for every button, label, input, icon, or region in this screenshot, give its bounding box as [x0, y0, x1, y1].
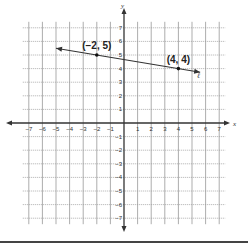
data-point: [95, 53, 99, 57]
y-tick-label: −6: [115, 202, 123, 208]
horizontal-rule: [0, 241, 248, 243]
y-tick-label: −1: [115, 134, 123, 140]
x-axis-label: x: [232, 120, 237, 128]
x-tick-label: −3: [80, 126, 88, 132]
line-name-label: ℓ: [196, 72, 200, 80]
x-tick-label: 4: [177, 126, 181, 132]
y-tick-label: −3: [115, 161, 123, 167]
y-tick-label: 2: [119, 93, 123, 99]
y-tick-label: −2: [115, 147, 123, 153]
coordinate-plane: x y −7−6−5−4−3−2−11234567−7−6−5−4−3−2−11…: [0, 0, 248, 247]
point-label: (4, 4): [167, 54, 190, 65]
line-arrow-left: [56, 47, 62, 52]
y-tick-label: −5: [115, 188, 123, 194]
x-axis-arrow-right: [224, 121, 230, 126]
y-tick-label: −7: [115, 215, 123, 221]
x-tick-label: 1: [136, 126, 140, 132]
y-tick-label: 7: [119, 25, 123, 31]
y-tick-label: 6: [119, 38, 123, 44]
x-tick-label: 2: [150, 126, 154, 132]
point-label: (−2, 5): [82, 40, 111, 51]
y-tick-label: 1: [119, 106, 123, 112]
y-tick-label: 5: [119, 52, 123, 58]
x-axis-arrow-left: [6, 121, 12, 126]
x-tick-label: 7: [218, 126, 222, 132]
x-tick-label: 5: [190, 126, 194, 132]
x-tick-label: −4: [66, 126, 74, 132]
x-tick-label: −5: [53, 126, 61, 132]
x-tick-label: −2: [93, 126, 101, 132]
data-point: [177, 67, 181, 71]
x-tick-label: −6: [39, 126, 47, 132]
y-tick-label: 3: [119, 79, 123, 85]
x-tick-label: −1: [107, 126, 115, 132]
axes: x y: [6, 2, 237, 232]
x-tick-label: 3: [163, 126, 167, 132]
x-tick-label: 6: [204, 126, 208, 132]
y-tick-label: −4: [115, 174, 123, 180]
annotations: (−2, 5)(4, 4)ℓ: [82, 40, 200, 80]
y-axis-arrow-down: [122, 226, 127, 232]
x-tick-label: −7: [25, 126, 33, 132]
y-tick-label: 4: [119, 66, 123, 72]
